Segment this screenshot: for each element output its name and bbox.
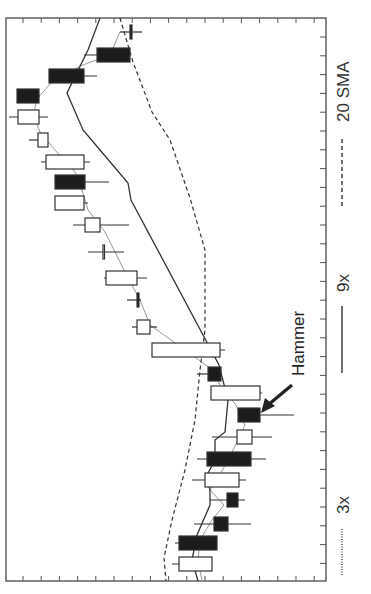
candle xyxy=(211,386,262,400)
candle-body-hollow xyxy=(205,473,239,487)
hammer-annotation: Hammer xyxy=(261,310,308,413)
hammer-arrow-shaft xyxy=(268,385,292,405)
candle xyxy=(49,69,97,83)
candle xyxy=(197,452,266,466)
candle-body-filled xyxy=(214,517,228,531)
candle-body-filled xyxy=(207,452,251,466)
candle xyxy=(29,133,48,147)
candle-body-filled xyxy=(55,175,85,189)
legend-20sma-label: 20 SMA xyxy=(334,61,353,122)
candle xyxy=(212,430,272,444)
candle xyxy=(9,110,48,124)
candle-body-hollow xyxy=(46,155,84,169)
axis-ticks xyxy=(23,18,326,581)
candle xyxy=(88,245,124,259)
candle xyxy=(104,271,147,285)
candle xyxy=(132,320,157,334)
candle-body-filled xyxy=(97,48,130,62)
series-9x xyxy=(67,18,228,581)
candle-body-filled xyxy=(208,367,221,381)
candle xyxy=(84,48,130,62)
legend-3x-label: 3x xyxy=(334,496,353,514)
candle-body-hollow xyxy=(152,343,220,357)
candle xyxy=(55,175,109,189)
candles xyxy=(9,25,294,571)
candle xyxy=(192,473,246,487)
candle xyxy=(194,517,251,531)
candle xyxy=(127,293,141,307)
candle-body-hollow xyxy=(103,245,105,259)
candle-body-filled xyxy=(179,536,217,550)
plot-frame xyxy=(6,18,326,581)
candle-body-hollow xyxy=(237,430,252,444)
candle-body-hollow xyxy=(18,110,39,124)
candle xyxy=(152,343,225,357)
candle-body-filled xyxy=(49,69,84,83)
candle xyxy=(17,89,40,103)
candle-body-hollow xyxy=(85,218,100,232)
candle-body-filled xyxy=(137,293,139,307)
hammer-label: Hammer xyxy=(289,310,308,376)
candle-body-hollow xyxy=(106,271,137,285)
candle xyxy=(172,557,212,571)
candle-body-hollow xyxy=(211,386,260,400)
candle xyxy=(55,196,88,210)
candle-body-hollow xyxy=(179,557,212,571)
plot-border xyxy=(6,18,326,581)
candle-body-filled xyxy=(17,89,39,103)
candle-body-hollow xyxy=(55,196,84,210)
candle xyxy=(175,536,217,550)
candlestick-chart: Hammer 3x 9x 20 SMA xyxy=(0,0,371,594)
legend: 3x 9x 20 SMA xyxy=(334,61,353,575)
candle xyxy=(41,155,90,169)
candle-body-hollow xyxy=(38,133,48,147)
candle-body-filled xyxy=(227,493,238,507)
candle-body-filled xyxy=(238,408,260,422)
candle-body-hollow xyxy=(137,320,150,334)
candle xyxy=(73,218,129,232)
legend-9x-label: 9x xyxy=(334,274,353,292)
candle-body-filled xyxy=(130,25,132,39)
